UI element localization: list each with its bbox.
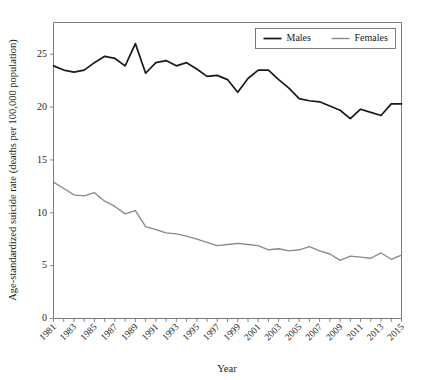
y-tick-label: 10	[37, 207, 47, 218]
y-tick-label: 5	[42, 259, 47, 270]
x-tick-label: 2003	[263, 322, 284, 343]
x-tick-label: 1983	[58, 322, 79, 343]
x-tick-label: 1981	[37, 322, 58, 343]
series-line-females	[54, 182, 402, 260]
x-tick-label: 1991	[140, 322, 161, 343]
x-tick-label: 1985	[78, 322, 99, 343]
chart-legend: MalesFemales	[256, 29, 396, 49]
x-tick-label: 1993	[160, 322, 181, 343]
x-tick-label: 1987	[99, 322, 120, 343]
x-tick-label: 1999	[222, 322, 243, 343]
y-tick-label: 20	[37, 101, 47, 112]
axis-frame	[54, 23, 402, 319]
y-axis-ticks: 0510152025	[37, 48, 54, 323]
x-tick-label: 2009	[324, 322, 345, 343]
x-tick-label: 2011	[345, 322, 365, 342]
y-tick-label: 15	[37, 154, 47, 165]
figure-container: 0510152025 19811983198519871989199119931…	[0, 0, 427, 380]
y-axis-title: Age-standardized suicide rate (deaths pe…	[7, 39, 19, 301]
x-axis-title: Year	[217, 363, 237, 374]
series-line-males	[54, 44, 402, 119]
x-axis-ticks: 1981198319851987198919911993199519971999…	[37, 319, 406, 343]
x-tick-label: 2015	[385, 322, 406, 343]
series-layer	[54, 44, 402, 261]
x-tick-label: 1995	[181, 322, 202, 343]
plot-frame	[54, 23, 402, 319]
x-tick-label: 2013	[365, 322, 386, 343]
y-tick-label: 0	[42, 312, 47, 323]
x-tick-label: 2007	[304, 322, 325, 343]
x-tick-label: 1989	[119, 322, 140, 343]
x-tick-label: 2001	[242, 322, 263, 343]
legend-label-males: Males	[287, 32, 312, 43]
x-tick-label: 1997	[201, 322, 222, 343]
legend-label-females: Females	[355, 32, 388, 43]
x-tick-label: 2005	[283, 322, 304, 343]
line-chart: 0510152025 19811983198519871989199119931…	[0, 0, 427, 380]
y-tick-label: 25	[37, 48, 47, 59]
